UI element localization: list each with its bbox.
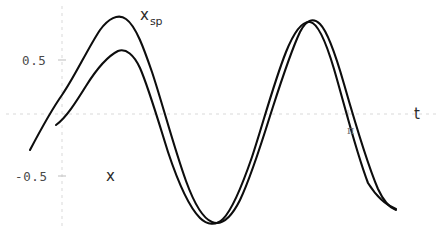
series-label-x-sp-sub: sp: [150, 15, 163, 28]
x-axis-tick-label-pi: π: [347, 124, 354, 137]
series-label-x: x: [106, 167, 115, 185]
x-axis-name: t: [414, 105, 420, 123]
svg-text:xsp: xsp: [140, 6, 163, 28]
y-axis-label-upper: 0.5: [22, 53, 46, 68]
series-label-x-sp: xsp: [140, 6, 163, 28]
y-axis-label-lower: -0.5: [15, 169, 48, 184]
series-label-x-sp-main: x: [140, 6, 149, 24]
curve-x: [56, 22, 396, 224]
plot-canvas: 0.5 -0.5 π xsp x t: [0, 0, 444, 233]
plot-figure: 0.5 -0.5 π xsp x t: [0, 0, 444, 233]
curve-x-sp: [30, 17, 396, 223]
